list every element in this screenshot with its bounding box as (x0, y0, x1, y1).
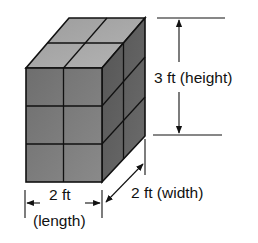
front-face (26, 68, 102, 182)
height-dimension: 3 ft (height) (153, 18, 232, 135)
height-label: 3 ft (height) (154, 69, 232, 86)
length-dimension: 2 ft (length) (25, 186, 102, 229)
prism-diagram: 3 ft (height) 2 ft (length) 2 ft (width) (0, 0, 258, 243)
length-value-label: 2 ft (49, 186, 71, 203)
length-name-label: (length) (33, 212, 86, 229)
width-label: 2 ft (width) (131, 184, 203, 201)
